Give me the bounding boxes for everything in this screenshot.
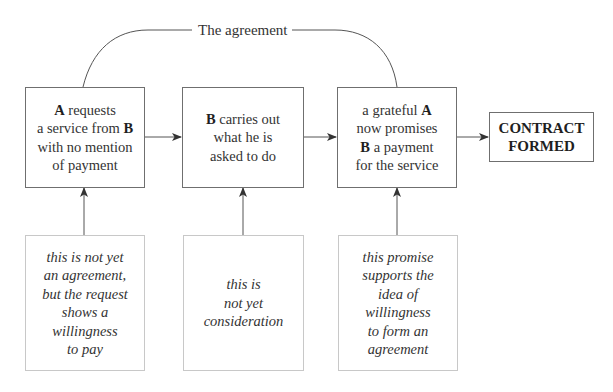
note1-line-1: this is not yet: [47, 248, 124, 267]
note2-line-1: this is: [226, 275, 260, 294]
step3-line-4: for the service: [356, 156, 439, 175]
diagram-canvas: The agreement A requests a service from …: [0, 0, 613, 392]
note3-line-3: idea of: [378, 285, 418, 304]
note-box-not-consideration: this is not yet consideration: [183, 235, 304, 371]
note3-line-1: this promise: [363, 248, 434, 267]
note3-line-6: agreement: [368, 340, 429, 359]
step2-line-2: what he is: [214, 128, 273, 147]
note-box-request-willingness: this is not yet an agreement, but the re…: [25, 235, 145, 371]
note1-line-6: to pay: [67, 340, 103, 359]
step-box-a-requests: A requests a service from B with no ment…: [25, 87, 145, 188]
note2-line-3: consideration: [204, 312, 284, 331]
note3-line-2: supports the: [362, 266, 433, 285]
result-line-1: CONTRACT: [499, 119, 585, 137]
result-box-contract-formed: CONTRACT FORMED: [489, 112, 594, 162]
note3-line-5: to form an: [368, 322, 428, 341]
step-box-b-carries-out: B carries out what he is asked to do: [182, 87, 304, 188]
agreement-bracket-left: [83, 30, 192, 87]
step1-line-4: of payment: [52, 156, 118, 175]
step1-line-2: a service from B: [37, 119, 133, 138]
step2-line-3: asked to do: [210, 147, 276, 166]
result-line-2: FORMED: [508, 137, 575, 155]
step3-line-3: B a payment: [360, 138, 433, 157]
agreement-label: The agreement: [194, 20, 292, 40]
agreement-bracket-right: [292, 30, 397, 87]
note1-line-4: shows a: [62, 303, 108, 322]
step1-line-3: with no mention: [37, 138, 132, 157]
note1-line-5: willingness: [52, 322, 117, 341]
step1-line-1: A requests: [54, 101, 116, 120]
note1-line-2: an agreement,: [44, 266, 126, 285]
note1-line-3: but the request: [42, 285, 128, 304]
note2-line-2: not yet: [224, 294, 263, 313]
step3-line-2: now promises: [357, 119, 438, 138]
note3-line-4: willingness: [365, 303, 430, 322]
step3-line-1: a grateful A: [362, 101, 431, 120]
step2-line-1: B carries out: [206, 110, 280, 129]
note-box-promise-supports: this promise supports the idea of willin…: [338, 235, 458, 371]
step-box-a-promises: a grateful A now promises B a payment fo…: [337, 87, 457, 188]
